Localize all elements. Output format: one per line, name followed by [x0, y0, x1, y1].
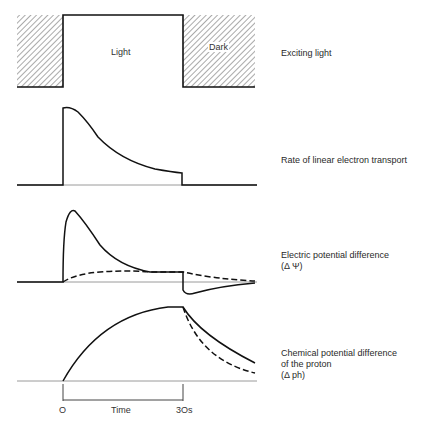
exciting-light-label: Exciting light: [281, 48, 332, 59]
time-end-label: 3Os: [176, 405, 193, 415]
transport-curve: [17, 108, 257, 186]
dark-region-label: Dark: [208, 42, 229, 52]
delta-psi-solid-curve: [17, 210, 255, 294]
chemical-potential-label: Chemical potential difference: [281, 348, 397, 359]
electron-transport-label: Rate of linear electron transport: [281, 155, 407, 166]
time-start-label: O: [59, 405, 66, 415]
time-axis-label: Time: [111, 405, 131, 415]
diagram-canvas: [0, 0, 425, 436]
chemical-potential-label-line2: of the proton: [281, 359, 332, 370]
light-region-label: Light: [111, 47, 131, 57]
delta-ph-dashed-curve: [183, 307, 255, 373]
electric-potential-panel: [17, 210, 257, 294]
delta-ph-solid-curve: [63, 307, 255, 381]
dark-hatch-left: [17, 15, 63, 87]
chemical-potential-panel: [17, 307, 257, 381]
electron-transport-panel: [17, 108, 257, 186]
chemical-potential-symbol: (Δ ph): [281, 370, 305, 381]
time-axis: [63, 384, 183, 401]
electric-potential-label: Electric potential difference: [281, 250, 389, 261]
electric-potential-symbol: (Δ Ψ): [281, 261, 303, 272]
